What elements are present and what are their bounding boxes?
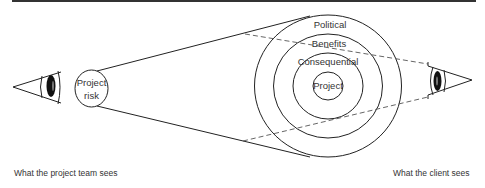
cone-line-bottom [97,106,310,157]
left-viewer-caption: What the project team sees [14,168,117,178]
right-eye-icon [428,62,472,99]
ring-label-project: Project [313,80,343,91]
ring-label-consequential: Consequential [298,56,359,67]
cone-line-top [97,16,310,71]
perspective-diagram: Project risk Political Benefits Conseque… [0,0,485,188]
project-risk-node: Project risk [75,70,108,107]
left-eye-icon [13,71,61,104]
project-risk-label-line1: Project [77,77,107,88]
top-rule [12,0,476,2]
ring-label-benefits: Benefits [312,38,347,49]
concentric-rings: Political Benefits Consequential Project [255,15,402,157]
right-viewer-caption: What the client sees [393,168,470,178]
ring-label-political: Political [314,19,347,30]
sight-line-bottom [243,97,428,141]
project-risk-label-line2: risk [84,90,99,101]
